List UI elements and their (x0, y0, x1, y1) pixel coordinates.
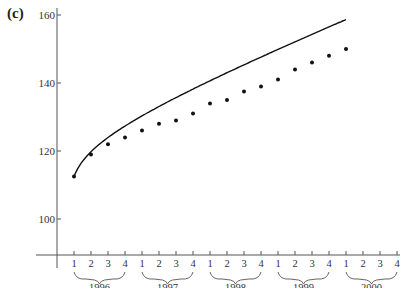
x-tick-label: 4 (326, 258, 332, 269)
year-label: 2000 (361, 282, 382, 288)
x-tick-label: 4 (190, 258, 196, 269)
chart: 1001201401601234123412341234123419961997… (0, 0, 400, 288)
x-tick-label: 3 (309, 258, 314, 269)
data-point (106, 142, 110, 146)
x-tick-label: 1 (139, 258, 144, 269)
x-tick-label: 2 (292, 258, 297, 269)
data-point (157, 122, 161, 126)
x-tick-label: 1 (343, 258, 348, 269)
x-tick-label: 3 (241, 258, 246, 269)
data-point (140, 129, 144, 133)
x-tick-label: 1 (275, 258, 280, 269)
x-tick-label: 2 (156, 258, 161, 269)
y-tick-label: 120 (39, 145, 56, 157)
x-tick-label: 1 (71, 258, 76, 269)
data-point (89, 152, 93, 156)
y-tick-label: 160 (39, 9, 56, 21)
year-label: 1996 (89, 282, 110, 288)
y-tick-label: 100 (39, 213, 56, 225)
year-label: 1998 (225, 282, 246, 288)
x-tick-label: 3 (105, 258, 110, 269)
data-point (310, 61, 314, 65)
data-point (72, 175, 76, 179)
x-tick-label: 4 (122, 258, 128, 269)
x-tick-label: 1 (207, 258, 212, 269)
year-label: 1999 (293, 282, 314, 288)
data-point (293, 67, 297, 71)
x-tick-label: 2 (88, 258, 93, 269)
x-tick-label: 2 (360, 258, 365, 269)
year-label: 1997 (157, 282, 178, 288)
data-point (191, 112, 195, 116)
data-point (123, 135, 127, 139)
data-point (242, 90, 246, 94)
x-tick-label: 2 (224, 258, 229, 269)
data-point (174, 118, 178, 122)
y-tick-label: 140 (39, 77, 56, 89)
x-tick-label: 3 (377, 258, 382, 269)
x-tick-label: 4 (394, 258, 400, 269)
fitted-curve (74, 20, 346, 177)
data-point (225, 98, 229, 102)
data-point (327, 54, 331, 58)
x-tick-label: 4 (258, 258, 264, 269)
x-tick-label: 3 (173, 258, 178, 269)
data-point (259, 84, 263, 88)
data-point (344, 47, 348, 51)
data-point (276, 78, 280, 82)
data-point (208, 101, 212, 105)
